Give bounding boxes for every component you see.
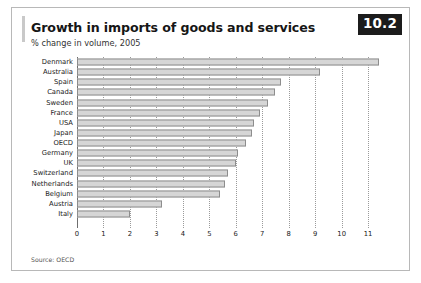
category-label: Belgium (45, 190, 73, 198)
x-tick-label: 8 (287, 230, 291, 238)
chart-row: Belgium (77, 189, 384, 199)
bar (77, 129, 252, 136)
x-tick-label: 2 (128, 230, 132, 238)
bar (77, 59, 379, 66)
chart-row: Netherlands (77, 179, 384, 189)
x-tick-label: 0 (75, 230, 79, 238)
chart-row: Denmark (77, 57, 384, 67)
x-tick-label: 10 (337, 230, 346, 238)
category-label: Germany (42, 149, 73, 157)
bar (77, 109, 260, 116)
x-tick-label: 9 (313, 230, 317, 238)
chart-row: UK (77, 158, 384, 168)
category-label: Canada (47, 88, 73, 96)
bar (77, 170, 228, 177)
category-label: Spain (54, 78, 73, 86)
category-label: Austria (49, 200, 73, 208)
chart-row: France (77, 108, 384, 118)
bar (77, 89, 275, 96)
chart-row: Germany (77, 148, 384, 158)
chart-row: Japan (77, 128, 384, 138)
x-axis-tick-labels: 01234567891011 (77, 230, 384, 242)
x-tick-label: 1 (101, 230, 105, 238)
category-label: Netherlands (32, 180, 73, 188)
bar (77, 200, 162, 207)
bar (77, 190, 220, 197)
chart-row: USA (77, 118, 384, 128)
chart-row: Australia (77, 67, 384, 77)
category-label: OECD (53, 139, 73, 147)
category-label: Italy (58, 210, 73, 218)
bar (77, 150, 238, 157)
bar (77, 79, 281, 86)
category-label: Sweden (46, 99, 73, 107)
chart-plot: DenmarkAustraliaSpainCanadaSwedenFranceU… (12, 8, 411, 272)
x-tick-label: 7 (260, 230, 264, 238)
category-label: UK (64, 159, 73, 167)
chart-row: Switzerland (77, 168, 384, 178)
bar (77, 140, 246, 147)
category-label: Denmark (42, 58, 73, 66)
x-tick-label: 3 (154, 230, 158, 238)
chart-row: Canada (77, 87, 384, 97)
bar (77, 210, 130, 217)
bars-container: DenmarkAustraliaSpainCanadaSwedenFranceU… (77, 57, 384, 219)
category-label: France (50, 109, 73, 117)
bar (77, 160, 236, 167)
chart-row: Italy (77, 209, 384, 219)
x-tick-label: 5 (207, 230, 211, 238)
chart-row: Austria (77, 199, 384, 209)
chart-row: Spain (77, 77, 384, 87)
bar (77, 69, 320, 76)
chart-row: Sweden (77, 98, 384, 108)
source-note: Source: OECD (31, 256, 74, 263)
x-tick-label: 4 (181, 230, 185, 238)
category-label: Japan (54, 129, 73, 137)
bar (77, 180, 225, 187)
x-tick-label: 11 (364, 230, 373, 238)
category-label: Australia (43, 68, 73, 76)
x-tick-label: 6 (234, 230, 238, 238)
bar (77, 119, 254, 126)
category-label: Switzerland (33, 169, 73, 177)
category-label: USA (59, 119, 73, 127)
bar (77, 99, 268, 106)
chart-row: OECD (77, 138, 384, 148)
figure-panel: 10.2 Growth in imports of goods and serv… (11, 7, 410, 271)
